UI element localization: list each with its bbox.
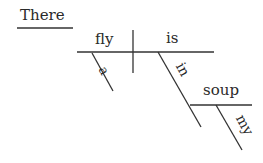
word-is: is xyxy=(166,31,179,46)
word-soup: soup xyxy=(203,83,239,98)
word-fly: fly xyxy=(95,32,113,47)
word-there: There xyxy=(20,8,65,23)
